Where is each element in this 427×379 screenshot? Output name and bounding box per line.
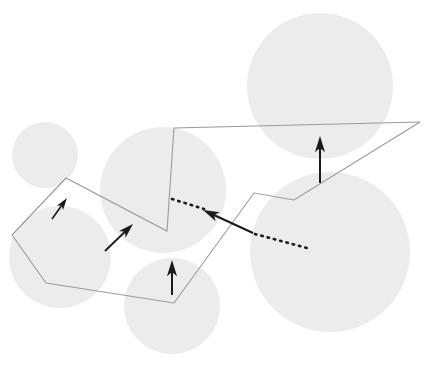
disk-center (100, 127, 226, 253)
geometry-canvas (0, 0, 427, 379)
figure-root (0, 0, 427, 379)
disk-upper-left-small (12, 122, 78, 188)
